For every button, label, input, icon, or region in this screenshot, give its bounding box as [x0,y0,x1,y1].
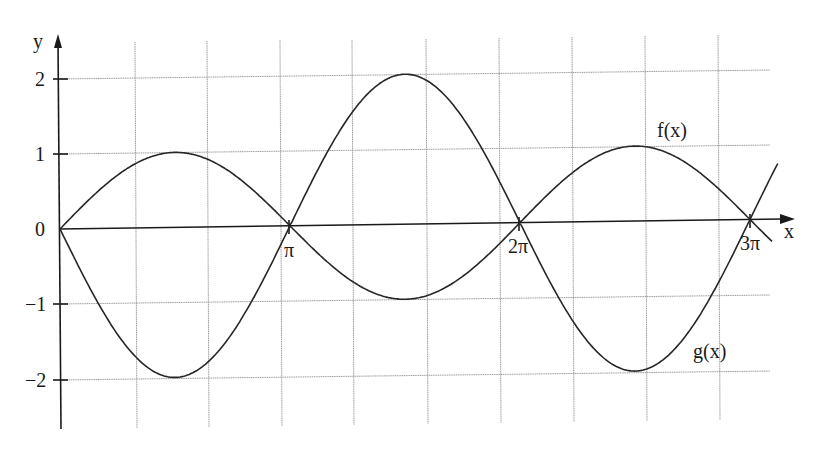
axes [53,34,795,429]
y-axis-label: y [33,30,43,53]
curve-f [60,74,772,241]
x-tick-label-3pi: 3π [740,232,760,254]
x-tick-label-2pi: 2π [508,235,528,257]
x-axis-label: x [784,220,794,242]
y-tick-label-m1: −1 [25,293,46,315]
function-plot: y x 2 1 0 −1 −2 π 2π 3π f(x) g(x) [0,0,814,459]
y-tick-label-2: 2 [35,68,45,90]
origin-label: 0 [35,218,45,240]
y-tick-label-1: 1 [35,143,45,165]
x-tick-label-pi: π [284,239,294,261]
y-tick-label-m2: −2 [25,369,46,391]
x-axis [60,219,785,229]
g-curve-label: g(x) [693,340,726,363]
curve-g [60,164,778,378]
f-curve-label: f(x) [657,119,687,142]
y-axis-arrow-icon [54,34,62,48]
grid [60,35,770,428]
y-axis [58,42,61,429]
